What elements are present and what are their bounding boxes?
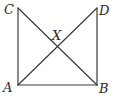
label-x: X — [51, 28, 62, 43]
label-b: B — [98, 81, 109, 96]
label-c: C — [4, 2, 14, 17]
label-d: D — [98, 3, 110, 18]
geometry-diagram: C D A B X — [0, 0, 115, 96]
label-a: A — [2, 80, 12, 95]
